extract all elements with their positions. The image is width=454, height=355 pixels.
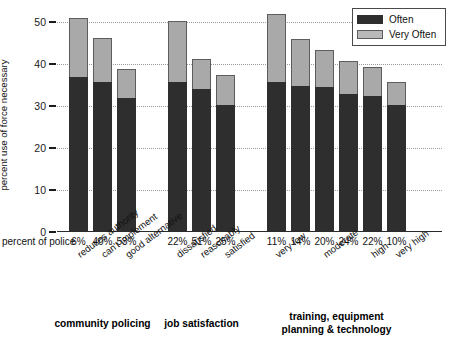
bar-segment-often xyxy=(339,94,358,232)
gridline xyxy=(57,64,442,65)
bar-8 xyxy=(291,39,310,232)
bar-9 xyxy=(315,50,334,232)
y-axis-tick xyxy=(49,231,56,233)
legend-item-very-often: Very Often xyxy=(357,27,441,42)
y-axis-tick-label: 30 xyxy=(34,101,46,112)
legend-item-often: Often xyxy=(357,12,441,27)
bar-segment-often xyxy=(387,105,406,232)
bar-segment-very-often xyxy=(168,21,187,84)
y-axis-tick xyxy=(49,105,56,107)
y-axis-line xyxy=(56,22,57,232)
bar-segment-very-often xyxy=(363,67,382,97)
y-axis-tick-label: 10 xyxy=(34,185,46,196)
bar-segment-very-often xyxy=(339,61,358,96)
bar-segment-very-often xyxy=(69,18,88,78)
bar-segment-very-often xyxy=(117,69,136,100)
bar-segment-very-often xyxy=(315,50,334,88)
bar-segment-often xyxy=(216,105,235,232)
bar-4 xyxy=(168,21,187,232)
legend-label-very-often: Very Often xyxy=(389,30,436,40)
plot-area: 01020304050 xyxy=(57,22,442,232)
legend-label-often: Often xyxy=(389,15,413,25)
gridline xyxy=(57,190,442,191)
bar-segment-often xyxy=(267,82,286,232)
bar-7 xyxy=(267,14,286,232)
gridline xyxy=(57,148,442,149)
legend-swatch-often-icon xyxy=(357,15,383,24)
bar-segment-very-often xyxy=(267,14,286,83)
y-axis-tick-label: 50 xyxy=(34,17,46,28)
bar-segment-often xyxy=(291,86,310,232)
bar-1 xyxy=(69,18,88,232)
bar-10 xyxy=(339,61,358,232)
bar-segment-often xyxy=(315,87,334,232)
bar-2 xyxy=(93,38,112,232)
bar-6 xyxy=(216,75,235,232)
y-axis-tick xyxy=(49,63,56,65)
y-axis-tick xyxy=(49,21,56,23)
bar-11 xyxy=(363,67,382,232)
bar-segment-very-often xyxy=(291,39,310,87)
bar-12 xyxy=(387,82,406,232)
secondary-axis-label: percent of police xyxy=(2,236,75,247)
bar-segment-often xyxy=(69,77,88,232)
chart-legend: Often Very Often xyxy=(352,8,446,46)
bar-segment-very-often xyxy=(387,82,406,106)
bar-segment-often xyxy=(363,96,382,233)
bar-segment-often xyxy=(192,89,211,232)
y-axis-title: percent use of force necessary xyxy=(0,20,9,230)
bar-segment-very-often xyxy=(192,59,211,91)
bar-segment-very-often xyxy=(93,38,112,84)
y-axis-tick-label: 40 xyxy=(34,59,46,70)
y-axis-tick xyxy=(49,189,56,191)
y-axis-tick-label: 20 xyxy=(34,143,46,154)
bar-segment-often xyxy=(93,82,112,232)
group-title-3: training, equipment planning & technolog… xyxy=(257,311,417,337)
y-axis-tick xyxy=(49,147,56,149)
legend-swatch-very-often-icon xyxy=(357,30,383,39)
bar-5 xyxy=(192,59,211,232)
bar-segment-very-often xyxy=(216,75,235,106)
chart-container: percent use of force necessary 010203040… xyxy=(0,0,454,355)
gridline xyxy=(57,106,442,107)
